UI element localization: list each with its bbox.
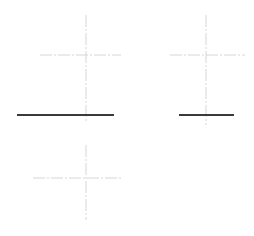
top-view [33,145,123,220]
side-view [170,15,245,125]
drawing-canvas [0,0,254,236]
front-view [17,15,121,123]
